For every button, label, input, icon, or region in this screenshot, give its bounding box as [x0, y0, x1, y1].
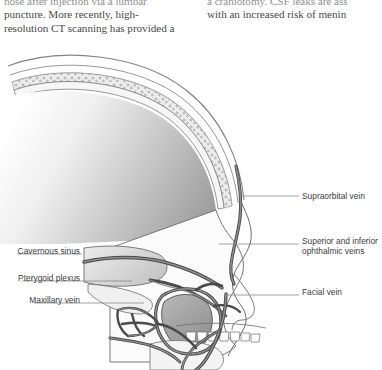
body-text-left-column: nose after injection via a lumbar punctu…	[4, 0, 186, 35]
body-text-line: puncture. More recently, high-	[4, 8, 186, 21]
label-pterygoid-plexus: Pterygoid plexus	[18, 274, 80, 284]
body-text-line: a craniotomy. CSF leaks are ass	[207, 0, 382, 8]
body-text-line: with an increased risk of menin	[207, 8, 382, 21]
label-supraorbital-vein: Supraorbital vein	[302, 192, 365, 202]
anatomical-figure	[0, 48, 377, 370]
label-facial-vein: Facial vein	[302, 288, 342, 298]
body-text-line: nose after injection via a lumbar	[4, 0, 186, 8]
body-text-line: resolution CT scanning has provided a	[4, 22, 186, 35]
label-maxillary-vein: Maxillary vein	[29, 296, 80, 306]
label-ophthalmic-veins: Superior and inferior ophthalmic veins	[302, 237, 378, 256]
body-text-right-column: a craniotomy. CSF leaks are ass with an …	[207, 0, 382, 22]
label-cavernous-sinus: Cavernous sinus	[18, 247, 80, 257]
label-line: ophthalmic veins	[302, 247, 378, 257]
